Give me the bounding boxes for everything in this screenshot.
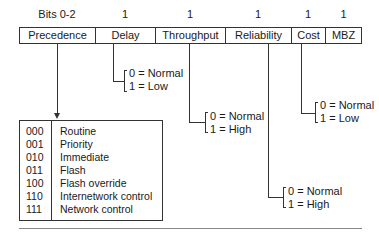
reliability-connector bbox=[268, 44, 269, 198]
arrow-down-icon bbox=[54, 113, 60, 119]
precedence-code: 010 bbox=[26, 151, 44, 164]
field-throughput: Throughput bbox=[155, 27, 226, 44]
throughput-bracket-bottom bbox=[205, 132, 208, 133]
delay-value-1: 1 = Low bbox=[129, 80, 168, 93]
delay-value-0: 0 = Normal bbox=[129, 67, 183, 80]
field-cost: Cost bbox=[291, 27, 326, 44]
delay-connector-h bbox=[113, 81, 124, 82]
cost-bracket-top bbox=[315, 102, 318, 103]
precedence-connector bbox=[57, 44, 58, 114]
precedence-name: Flash bbox=[60, 164, 86, 177]
reliability-value-1: 1 = High bbox=[288, 198, 329, 211]
bits-label-precedence: Bits 0-2 bbox=[19, 8, 95, 21]
delay-bracket-top bbox=[124, 70, 127, 71]
precedence-code: 110 bbox=[26, 190, 43, 203]
bits-label-reliability: 1 bbox=[225, 8, 291, 21]
reliability-bracket bbox=[283, 187, 284, 208]
bits-label-delay: 1 bbox=[95, 8, 155, 21]
cost-connector bbox=[301, 44, 302, 114]
precedence-code: 111 bbox=[26, 203, 42, 216]
throughput-bracket bbox=[205, 112, 206, 133]
table-divider bbox=[51, 121, 52, 220]
cost-value-0: 0 = Normal bbox=[320, 99, 374, 112]
reliability-bracket-bottom bbox=[283, 207, 286, 208]
throughput-bracket-top bbox=[205, 112, 208, 113]
cost-value-1: 1 = Low bbox=[320, 112, 359, 125]
precedence-name: Routine bbox=[60, 125, 96, 138]
bits-label-throughput: 1 bbox=[155, 8, 225, 21]
cost-bracket bbox=[315, 102, 316, 123]
precedence-name: Immediate bbox=[60, 151, 109, 164]
reliability-connector-h bbox=[268, 197, 283, 198]
precedence-code: 001 bbox=[26, 138, 44, 151]
precedence-name: Network control bbox=[60, 203, 133, 216]
throughput-connector-h bbox=[189, 122, 205, 123]
precedence-name: Flash override bbox=[60, 177, 127, 190]
precedence-name: Internetwork control bbox=[60, 190, 152, 203]
cost-bracket-bottom bbox=[315, 122, 318, 123]
delay-connector bbox=[113, 44, 114, 82]
precedence-code: 000 bbox=[26, 125, 44, 138]
bottom-rule bbox=[19, 228, 362, 229]
throughput-value-0: 0 = Normal bbox=[210, 110, 264, 123]
precedence-code: 011 bbox=[26, 164, 43, 177]
precedence-table: 000 Routine 001 Priority 010 Immediate 0… bbox=[19, 120, 163, 221]
throughput-connector bbox=[189, 44, 190, 123]
throughput-value-1: 1 = High bbox=[210, 123, 251, 136]
precedence-name: Priority bbox=[60, 138, 93, 151]
field-mbz: MBZ bbox=[325, 27, 362, 44]
delay-bracket-bottom bbox=[124, 91, 127, 92]
bits-label-mbz: 1 bbox=[325, 8, 362, 21]
delay-bracket bbox=[124, 70, 125, 92]
cost-connector-h bbox=[301, 113, 315, 114]
reliability-bracket-top bbox=[283, 187, 286, 188]
field-precedence: Precedence bbox=[19, 27, 96, 44]
field-delay: Delay bbox=[95, 27, 156, 44]
reliability-value-0: 0 = Normal bbox=[288, 185, 342, 198]
bits-label-cost: 1 bbox=[291, 8, 325, 21]
precedence-code: 100 bbox=[26, 177, 44, 190]
field-reliability: Reliability bbox=[225, 27, 292, 44]
